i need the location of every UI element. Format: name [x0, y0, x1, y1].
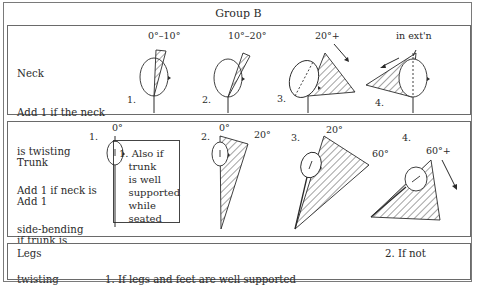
trunk-figure-1: [107, 136, 125, 227]
neck-figure-1: [140, 50, 171, 113]
neck-figure-3: [284, 44, 355, 113]
legs-option-2: 2. If not: [385, 247, 426, 260]
trunk-figure-4: [371, 160, 457, 220]
legs-option-1: 1. If legs and feet are well supported a…: [105, 247, 296, 288]
legs-label: Legs: [17, 247, 42, 260]
trunk-figure-3: [295, 136, 369, 229]
legs-option-1-line: 1. If legs and feet are well supported: [105, 273, 296, 286]
group-title: Group B: [0, 7, 477, 20]
trunk-section: Trunk Add 1 if trunk is twisting Add 1 i…: [7, 121, 471, 237]
neck-figure-4: [366, 50, 430, 113]
neck-figure-2: [214, 53, 250, 113]
legs-section: Legs 1. If legs and feet are well suppor…: [7, 243, 471, 280]
trunk-diagrams: [8, 122, 472, 238]
trunk-figure-2: [212, 136, 248, 229]
neck-section: Neck Add 1 if the neck is twisting Add 1…: [7, 25, 471, 115]
neck-diagrams: [8, 26, 472, 116]
